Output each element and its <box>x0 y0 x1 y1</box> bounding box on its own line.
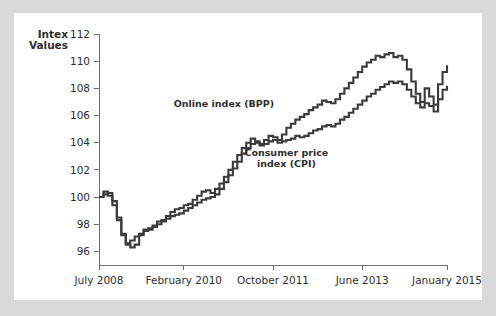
y-tick-label: 112 <box>70 28 90 40</box>
y-axis-title: Intex <box>38 28 69 40</box>
y-tick-label: 108 <box>70 82 90 94</box>
y-tick-label: 100 <box>70 191 90 203</box>
series-annotation: Consumer price <box>244 147 328 158</box>
y-tick-label: 96 <box>77 245 91 257</box>
x-tick-label: July 2008 <box>74 274 124 286</box>
y-tick-label: 106 <box>70 109 90 121</box>
x-tick-label: June 2013 <box>335 274 389 286</box>
x-tick-label: February 2010 <box>145 274 222 286</box>
y-tick-label: 102 <box>70 164 90 176</box>
chart-card: 1121101081061041021009896IntexValuesJuly… <box>14 13 482 300</box>
page-root: 1121101081061041021009896IntexValuesJuly… <box>0 0 496 316</box>
x-tick-label: January 2015 <box>411 274 482 286</box>
y-tick-label: 98 <box>77 218 90 230</box>
chart-svg: 1121101081061041021009896IntexValuesJuly… <box>14 13 482 300</box>
x-tick-label: October 2011 <box>237 274 309 286</box>
line-chart: 1121101081061041021009896IntexValuesJuly… <box>14 13 482 300</box>
series-annotation: Online index (BPP) <box>174 98 274 109</box>
y-tick-label: 104 <box>70 136 90 148</box>
y-tick-label: 110 <box>70 55 90 67</box>
y-axis-title: Values <box>29 39 68 51</box>
series-annotation: index (CPI) <box>257 158 316 169</box>
